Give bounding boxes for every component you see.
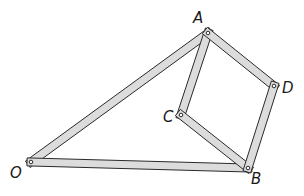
linkage-bars [25,27,279,173]
bar-AD [202,27,279,91]
linkage-diagram: A D C O B [0,0,304,196]
pin-A [206,31,210,35]
label-O: O [10,164,22,182]
bar-OB [27,158,252,172]
label-A: A [192,9,203,27]
pin-D [272,84,276,88]
pin-C [179,113,183,117]
label-C: C [163,108,174,126]
label-D: D [282,79,294,97]
bar-DB [243,81,279,173]
pin-B [246,166,250,170]
label-B: B [251,170,261,188]
pin-O [29,160,33,164]
